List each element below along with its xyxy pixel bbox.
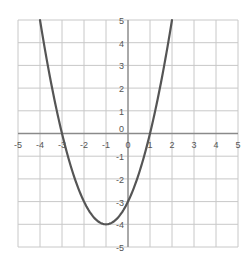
y-tick-label: -5 [116, 243, 124, 253]
y-tick-label: 4 [119, 39, 124, 49]
y-tick-label: -1 [116, 152, 124, 162]
y-tick-label: -2 [116, 175, 124, 185]
x-tick-label: -1 [102, 140, 110, 150]
x-tick-label: -5 [14, 140, 22, 150]
y-tick-label: -4 [116, 220, 124, 230]
y-tick-label: 0 [119, 124, 124, 134]
axes [18, 20, 238, 247]
y-tick-label: 2 [119, 84, 124, 94]
y-tick-label: 1 [119, 107, 124, 117]
y-tick-label: 5 [119, 16, 124, 26]
x-tick-label: 3 [191, 140, 196, 150]
x-tick-label: 2 [169, 140, 174, 150]
x-tick-labels: -5-4-3-2-1012345 [14, 140, 241, 150]
parabola-chart: -5-4-3-2-1012345 -5-4-3-2-1012345 [0, 0, 249, 261]
y-tick-label: -3 [116, 198, 124, 208]
x-tick-label: 5 [235, 140, 240, 150]
x-tick-label: -4 [36, 140, 44, 150]
x-tick-label: 4 [213, 140, 218, 150]
x-tick-label: -2 [80, 140, 88, 150]
y-tick-label: 3 [119, 61, 124, 71]
x-tick-label: 0 [125, 140, 130, 150]
